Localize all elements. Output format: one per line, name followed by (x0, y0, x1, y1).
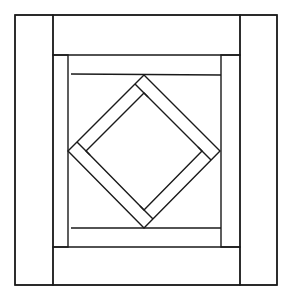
pinwheel-diamond (68, 75, 220, 228)
top-strip (53, 15, 240, 55)
border-strips (15, 15, 277, 285)
right-strip (240, 15, 277, 285)
left-strip (15, 15, 53, 285)
diamond-outer (68, 75, 220, 228)
bottom-strip (53, 247, 240, 285)
inner-right-strip (221, 55, 240, 247)
inner-lines (71, 74, 221, 228)
quilt-block-diagram (0, 0, 289, 300)
inner-left-strip (53, 55, 68, 247)
inner-top-line (71, 74, 221, 75)
diamond-inner (86, 93, 202, 210)
